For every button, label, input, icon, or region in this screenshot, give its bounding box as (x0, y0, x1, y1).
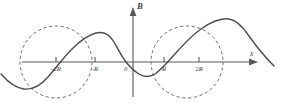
tick-label-minus-2r: -2R (51, 66, 60, 73)
tick-label-2r: 2R (195, 66, 202, 73)
field-diagram-figure: B x 0 -2R -R R 2R (0, 0, 282, 104)
x-axis-arrowhead (249, 59, 258, 66)
tick-label-minus-r: -R (92, 66, 98, 73)
x-axis-label: x (250, 50, 253, 58)
b-field-curve (1, 19, 274, 89)
b-axis-arrowhead (130, 7, 137, 16)
origin-label: 0 (124, 66, 127, 73)
field-diagram-canvas (0, 0, 282, 104)
tick-label-r: R (162, 66, 166, 73)
b-axis-label: B (137, 2, 143, 11)
